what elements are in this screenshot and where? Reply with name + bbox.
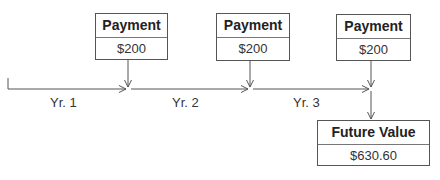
period-label-yr1: Yr. 1 <box>50 95 77 110</box>
payment-box-2-title: Payment <box>217 14 289 38</box>
payment-box-3-amount: $200 <box>337 39 410 61</box>
period-label-yr3: Yr. 3 <box>293 95 320 110</box>
period-label-yr2: Yr. 2 <box>172 95 199 110</box>
payment-box-2-amount: $200 <box>217 38 289 60</box>
future-value-box: Future Value $630.60 <box>317 120 430 166</box>
payment-box-1-amount: $200 <box>96 38 167 60</box>
payment-box-1: Payment $200 <box>95 13 168 60</box>
payment-box-3-title: Payment <box>337 15 410 39</box>
payment-box-1-title: Payment <box>96 14 167 38</box>
payment-box-2: Payment $200 <box>216 13 290 61</box>
future-value-amount: $630.60 <box>318 145 429 167</box>
future-value-title: Future Value <box>318 121 429 145</box>
payment-box-3: Payment $200 <box>336 14 411 61</box>
